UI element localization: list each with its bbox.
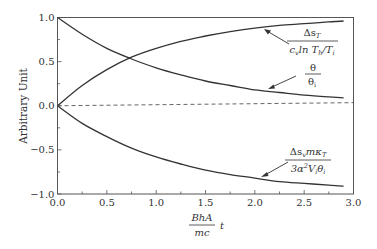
annotation-entropy-v: ΔsvmκT 3α2Viθi bbox=[261, 146, 331, 177]
y-tick-label: −1.0 bbox=[30, 189, 54, 200]
annotation-denominator: cvln Th/Ti bbox=[289, 44, 334, 57]
x-tick-label: 2.5 bbox=[296, 197, 312, 208]
x-axis: 0.00.51.01.52.02.53.0 bbox=[50, 190, 362, 208]
annotation-arrow bbox=[265, 162, 288, 175]
x-tick-label: 3.0 bbox=[346, 197, 362, 208]
zero-reference-dashed-line bbox=[58, 103, 354, 106]
x-axis-title-suffix: t bbox=[220, 220, 225, 231]
annotation-denominator: θi bbox=[308, 76, 316, 89]
arrow-head-icon bbox=[261, 172, 269, 177]
arrow-head-icon bbox=[264, 29, 271, 35]
x-axis-title-denominator: mc bbox=[194, 227, 209, 238]
annotation-entropy-T: ΔsT cvln Th/Ti bbox=[264, 27, 338, 57]
y-tick-label: −0.5 bbox=[30, 144, 54, 155]
x-axis-title-numerator: BhA bbox=[190, 212, 212, 223]
series-entropy-T-curve bbox=[58, 21, 344, 106]
x-tick-label: 2.0 bbox=[247, 197, 263, 208]
annotation-denominator: 3α2Viθi bbox=[291, 162, 326, 176]
annotation-arrow bbox=[272, 76, 296, 87]
line-chart: 0.00.51.01.52.02.53.0 1.00.50.0−0.5−1.0 … bbox=[0, 0, 377, 249]
x-tick-label: 1.5 bbox=[198, 197, 214, 208]
x-axis-title: BhA mc t bbox=[189, 212, 225, 238]
y-tick-label: 1.0 bbox=[39, 12, 55, 23]
annotation-theta: θ θi bbox=[268, 62, 321, 89]
x-tick-label: 0.5 bbox=[99, 197, 115, 208]
y-tick-label: 0.0 bbox=[39, 100, 55, 111]
y-axis-title: Arbitrary Unit bbox=[17, 67, 29, 144]
annotation-numerator: θ bbox=[310, 62, 316, 73]
series-theta-ratio-curve bbox=[58, 18, 344, 98]
arrow-head-icon bbox=[268, 85, 275, 90]
y-axis: 1.00.50.0−0.5−1.0 bbox=[30, 12, 61, 200]
x-tick-label: 1.0 bbox=[148, 197, 164, 208]
y-tick-label: 0.5 bbox=[39, 56, 55, 67]
annotation-numerator: ΔsT bbox=[303, 27, 321, 40]
annotation-numerator: ΔsvmκT bbox=[290, 146, 327, 159]
annotation-arrow bbox=[267, 31, 289, 44]
